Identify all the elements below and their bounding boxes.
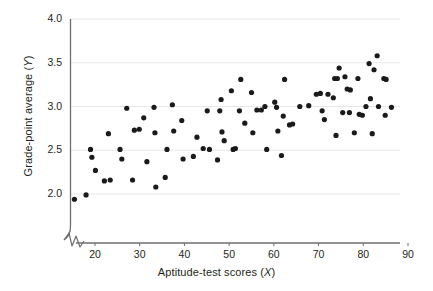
data-point (279, 153, 284, 158)
data-point (108, 177, 113, 182)
axis-break-icon (64, 233, 84, 247)
data-point (170, 102, 175, 107)
x-tick-label: 80 (350, 248, 376, 260)
data-point (237, 108, 242, 113)
data-point (72, 197, 77, 202)
data-point (124, 106, 129, 111)
data-point (164, 147, 169, 152)
data-point (254, 107, 259, 112)
data-point (371, 67, 376, 72)
x-tick-label: 20 (82, 248, 108, 260)
data-point (337, 65, 342, 70)
x-tick-label: 50 (216, 248, 242, 260)
data-point (383, 77, 388, 82)
data-point (218, 97, 223, 102)
data-point (335, 76, 340, 81)
data-point (281, 114, 286, 119)
y-tick-label: 2.5 (36, 143, 62, 155)
data-point (318, 91, 323, 96)
data-point (367, 61, 372, 66)
data-point (333, 133, 338, 138)
data-point (297, 104, 302, 109)
data-point (207, 147, 212, 152)
data-point (322, 117, 327, 122)
data-point (151, 105, 156, 110)
data-point (152, 130, 157, 135)
data-point (242, 121, 247, 126)
data-point (144, 159, 149, 164)
data-point (370, 131, 375, 136)
data-point (229, 88, 234, 93)
data-point (233, 146, 238, 151)
data-point (117, 147, 122, 152)
gridlines-group (71, 19, 400, 194)
data-point (179, 118, 184, 123)
data-point (259, 107, 264, 112)
data-point (93, 168, 98, 173)
data-point (274, 105, 279, 110)
data-point (250, 130, 255, 135)
data-points-group (72, 53, 394, 202)
data-point (348, 87, 353, 92)
y-axis-title: Grade-point average (Y) (22, 26, 34, 206)
data-point (375, 53, 380, 58)
data-point (180, 156, 185, 161)
data-point (383, 113, 388, 118)
data-point (320, 108, 325, 113)
data-point (272, 100, 277, 105)
data-point (102, 178, 107, 183)
y-tick-label: 3.5 (36, 56, 62, 68)
data-point (89, 155, 94, 160)
x-axis-title: Aptitude-test scores (X) (0, 266, 433, 278)
data-point (340, 110, 345, 115)
data-point (130, 177, 135, 182)
x-axis-title-text: Aptitude-test scores (X) (158, 266, 275, 278)
data-point (282, 77, 287, 82)
data-point (389, 105, 394, 110)
data-point (290, 121, 295, 126)
data-point (194, 135, 199, 140)
data-point (306, 103, 311, 108)
data-point (342, 74, 347, 79)
x-tick-label: 40 (171, 248, 197, 260)
data-point (83, 192, 88, 197)
data-point (215, 157, 220, 162)
data-point (201, 146, 206, 151)
data-point (347, 110, 352, 115)
data-point (137, 127, 142, 132)
data-point (171, 128, 176, 133)
data-point (363, 104, 368, 109)
data-point (355, 76, 360, 81)
y-tick-label: 3.0 (36, 100, 62, 112)
y-tick-label: 4.0 (36, 12, 62, 24)
data-point (119, 156, 124, 161)
data-point (106, 131, 111, 136)
data-point (88, 147, 93, 152)
data-point (325, 92, 330, 97)
data-point (376, 104, 381, 109)
data-point (141, 115, 146, 120)
x-tick-label: 60 (261, 248, 287, 260)
data-point (352, 130, 357, 135)
data-point (217, 108, 222, 113)
data-point (275, 128, 280, 133)
y-axis-title-text: Grade-point average (Y) (22, 56, 34, 177)
x-tick-label: 90 (395, 248, 421, 260)
data-point (357, 112, 362, 117)
scatter-plot-figure: 2.02.53.03.54.0 2030405060708090 Grade-p… (0, 0, 433, 291)
y-axis-line (64, 19, 71, 240)
y-tick-label: 2.0 (36, 187, 62, 199)
data-point (219, 129, 224, 134)
data-point (368, 96, 373, 101)
data-point (163, 175, 168, 180)
data-point (222, 138, 227, 143)
data-point (132, 128, 137, 133)
data-point (153, 184, 158, 189)
data-point (238, 77, 243, 82)
data-point (331, 95, 336, 100)
data-point (191, 154, 196, 159)
x-tick-label: 30 (127, 248, 153, 260)
data-point (249, 90, 254, 95)
data-point (205, 108, 210, 113)
data-point (264, 147, 269, 152)
